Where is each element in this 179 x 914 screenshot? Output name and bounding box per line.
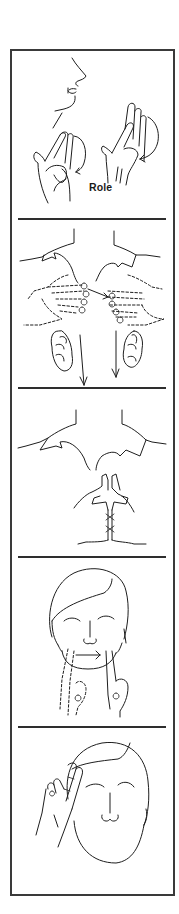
circular-arrow-icon xyxy=(140,117,158,162)
panel-4 xyxy=(12,559,173,725)
circular-arrow-icon xyxy=(74,136,86,174)
right-arrow-icon xyxy=(76,651,100,659)
hand-r-shape-icon xyxy=(102,103,147,185)
face-profile-icon xyxy=(53,58,86,128)
panel-5 xyxy=(12,729,173,889)
panel-divider-4 xyxy=(18,726,166,728)
two-finger-hand-icon xyxy=(36,763,83,847)
index-finger-icon xyxy=(60,649,128,717)
panel-divider-2 xyxy=(18,387,166,389)
hand-r-shape-icon xyxy=(34,132,73,203)
sign-illustration-panel-3 xyxy=(12,390,173,556)
collar-icon xyxy=(20,229,160,283)
face-front-icon xyxy=(67,742,149,863)
hands-icon xyxy=(24,275,164,325)
panel-2 xyxy=(12,221,173,387)
panel-divider-3 xyxy=(18,556,166,558)
collar-icon xyxy=(18,410,166,470)
panel-divider-1 xyxy=(18,218,166,220)
face-front-icon xyxy=(50,569,129,669)
sign-illustration-panel-4 xyxy=(12,559,173,725)
panel-1: Role xyxy=(12,51,173,217)
pinched-hands-icon xyxy=(74,474,146,544)
sign-illustration-panel-2 xyxy=(12,221,173,387)
sign-illustration-panel-5 xyxy=(12,729,173,889)
down-arrow-icon xyxy=(80,331,119,385)
hands-icon xyxy=(51,331,142,371)
panel-3 xyxy=(12,390,173,556)
panel-1-label: Role xyxy=(89,181,112,193)
